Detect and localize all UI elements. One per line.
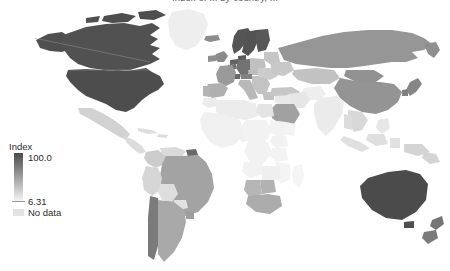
legend-title: Index bbox=[9, 141, 32, 152]
country-papua-new-guinea bbox=[422, 152, 440, 164]
country-kenya bbox=[270, 136, 288, 148]
country-egypt bbox=[256, 104, 274, 118]
country-australia bbox=[360, 170, 428, 220]
country-madagascar bbox=[292, 164, 304, 188]
map-svg bbox=[0, 4, 450, 271]
legend-min-label: 6.31 bbox=[28, 196, 47, 207]
figure-canvas: Index of ... by country, ... bbox=[0, 0, 450, 271]
country-portugal bbox=[203, 86, 210, 97]
country-indonesia-sulawesi bbox=[390, 138, 400, 148]
country-ukraine bbox=[270, 62, 294, 76]
map-legend: Index 100.0 6.31 No data bbox=[9, 141, 95, 217]
country-russia bbox=[278, 30, 432, 68]
legend-max-label: 100.0 bbox=[28, 152, 52, 163]
world-choropleth-map bbox=[0, 4, 450, 271]
country-zimbabwe-zambia bbox=[262, 166, 280, 180]
country-iceland bbox=[204, 35, 220, 42]
country-hispaniola bbox=[157, 134, 168, 138]
country-india bbox=[314, 96, 344, 136]
country-kazakhstan bbox=[292, 68, 340, 84]
legend-colorbar bbox=[14, 153, 23, 201]
country-kamchatka bbox=[424, 42, 440, 58]
country-morocco bbox=[202, 98, 218, 108]
country-mexico bbox=[78, 108, 130, 140]
country-united-kingdom bbox=[214, 51, 228, 62]
country-canada-arctic-3 bbox=[86, 16, 100, 23]
country-finland bbox=[256, 29, 270, 52]
country-south-korea bbox=[402, 89, 408, 96]
country-somalia bbox=[284, 122, 296, 136]
country-angola bbox=[242, 162, 264, 178]
country-indonesia-borneo bbox=[366, 134, 388, 146]
country-japan bbox=[406, 78, 422, 96]
legend-nodata-label: No data bbox=[28, 207, 61, 218]
country-new-zealand-south bbox=[422, 230, 438, 244]
country-cuba bbox=[138, 128, 158, 134]
country-botswana bbox=[260, 180, 276, 194]
country-austria bbox=[240, 74, 252, 79]
country-france bbox=[216, 65, 236, 86]
country-philippines bbox=[376, 118, 390, 134]
country-netherlands bbox=[230, 59, 238, 65]
country-china bbox=[334, 78, 402, 114]
country-new-zealand-north bbox=[430, 216, 444, 230]
country-south-africa bbox=[246, 194, 282, 214]
country-dr-congo bbox=[244, 142, 272, 164]
map-countries bbox=[34, 9, 444, 262]
country-canada-arctic-2 bbox=[138, 10, 166, 20]
country-argentina bbox=[158, 200, 186, 262]
country-tanzania bbox=[270, 148, 288, 162]
country-indonesia-sumatra bbox=[340, 136, 370, 152]
country-canada-arctic-1 bbox=[102, 13, 136, 23]
country-uruguay bbox=[186, 212, 194, 219]
country-ireland bbox=[208, 55, 216, 62]
legend-min-tick bbox=[12, 201, 25, 202]
country-central-america bbox=[124, 136, 146, 154]
legend-nodata-swatch bbox=[13, 209, 24, 216]
country-greenland bbox=[168, 9, 208, 50]
country-thailand bbox=[344, 114, 352, 130]
country-tasmania bbox=[404, 221, 414, 228]
country-united-states bbox=[66, 68, 164, 112]
figure-title-text: Index of ... by country, ... bbox=[0, 0, 450, 3]
